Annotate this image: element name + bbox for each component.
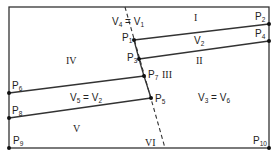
label-p10: P10 — [253, 136, 267, 148]
region-i: I — [194, 13, 197, 23]
label-p4: P4 — [255, 29, 265, 41]
point-p8 — [7, 116, 11, 120]
point-p9 — [7, 146, 11, 150]
point-p7 — [142, 74, 146, 78]
label-p9: P9 — [13, 136, 23, 148]
point-p5 — [149, 96, 153, 100]
point-p1 — [132, 38, 136, 42]
eq-v4-v1: V4 = V1 — [112, 17, 144, 29]
segment-p6-p7 — [9, 76, 144, 93]
label-p7: P7 — [148, 70, 158, 82]
point-p10 — [267, 146, 271, 150]
region-iv: IV — [66, 56, 77, 66]
point-p6 — [7, 91, 11, 95]
label-p1: P1 — [122, 33, 132, 45]
region-v: V — [73, 124, 80, 134]
label-p6: P6 — [12, 81, 22, 93]
segment-p3-p7 — [139, 59, 144, 76]
point-p4 — [267, 39, 271, 43]
label-p5: P5 — [155, 94, 165, 106]
eq-v3-v6: V3 = V6 — [198, 93, 230, 105]
label-p3: P3 — [127, 53, 137, 65]
eq-v2: V2 — [194, 36, 204, 48]
point-p3 — [137, 57, 141, 61]
label-p8: P8 — [12, 106, 22, 118]
point-p2 — [267, 22, 271, 26]
label-p2: P2 — [255, 12, 265, 24]
region-vi: VI — [145, 138, 156, 148]
region-iii: III — [162, 70, 172, 80]
segments — [9, 24, 269, 118]
diagram-canvas: P1P2P3P4P5P6P7P8P9P10 IIIIIIIVVVI V4 = V… — [0, 0, 275, 157]
region-ii: II — [196, 56, 203, 66]
points — [7, 22, 271, 150]
eq-v5-v2: V5 = V2 — [70, 93, 102, 105]
